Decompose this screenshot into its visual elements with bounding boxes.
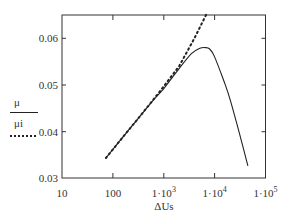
y-tick-label: 0.06 [39,32,59,44]
y-tick-label: 0.03 [39,172,59,184]
legend-label-mu: μ [10,96,50,108]
x-tick-label: 10 [57,187,69,199]
x-tick-label: 100 [105,187,122,199]
legend: μ μi [10,96,50,137]
legend-label-mui: μi [10,117,50,129]
legend-solid-line-swatch [10,112,38,113]
y-tick-label: 0.05 [39,79,59,91]
plot-frame [62,15,266,178]
x-tick-label: 1·103 [152,185,176,199]
x-tick-label: 1·105 [253,185,277,199]
series-mui-dotted-line [106,14,207,158]
series-mu-line [106,48,248,166]
x-axis-title: ΔUs [154,200,173,212]
legend-dotted-line-swatch [10,135,36,137]
x-ticks [113,15,215,178]
x-tick-label: 1·104 [203,185,227,199]
